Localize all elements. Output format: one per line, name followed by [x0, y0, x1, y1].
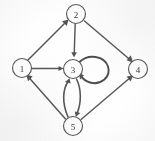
node-3-label: 3 — [71, 65, 76, 75]
edge-5-to-3 — [64, 78, 71, 117]
node-5-label: 5 — [71, 122, 76, 132]
edge-3-self-loop — [79, 57, 109, 83]
edge-5-to-3-curve — [64, 82, 68, 118]
node-2-label: 2 — [74, 10, 79, 20]
graph-diagram: 1 2 3 4 5 — [0, 0, 155, 141]
edge-3-to-5 — [75, 79, 81, 117]
edge-5-to-1-line — [28, 77, 66, 120]
node-1-label: 1 — [20, 64, 25, 74]
node-3[interactable]: 3 — [64, 60, 83, 79]
edge-2-to-3-line — [74, 24, 75, 55]
node-1[interactable]: 1 — [13, 59, 32, 78]
node-4[interactable]: 4 — [129, 60, 148, 79]
edge-2-to-4-line — [85, 21, 132, 61]
node-5[interactable]: 5 — [64, 117, 83, 136]
edge-5-to-3-arrowhead — [65, 78, 71, 83]
edge-3-self-loop-curve — [80, 57, 109, 83]
edge-1-to-2-line — [28, 22, 67, 61]
graph-canvas: 1 2 3 4 5 — [0, 0, 155, 141]
edge-1-to-2 — [28, 20, 69, 61]
edge-5-to-4-line — [81, 77, 131, 120]
node-2[interactable]: 2 — [67, 5, 86, 24]
edge-2-to-3 — [71, 24, 77, 58]
node-group: 1 2 3 4 5 — [13, 5, 148, 136]
edge-1-to-3 — [32, 66, 64, 71]
edge-3-to-5-curve — [77, 79, 81, 114]
edge-2-to-3-arrowhead — [71, 52, 77, 57]
edge-1-to-3-arrowhead — [59, 66, 64, 71]
edge-5-to-1 — [26, 74, 65, 119]
node-4-label: 4 — [136, 65, 141, 75]
edge-3-to-5-arrowhead — [75, 112, 81, 117]
